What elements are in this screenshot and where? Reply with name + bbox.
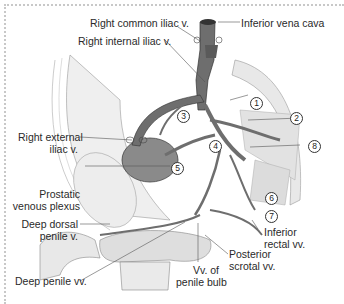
label-veins-of-penile-bulb-line2: penile bulb [176, 276, 227, 288]
marker-4: 4 [209, 140, 222, 153]
label-inferior-vena-cava: Inferior vena cava [241, 17, 324, 29]
label-right-external-iliac-vein-line1: Right external [18, 131, 78, 143]
label-inferior-rectal-veins-line1: Inferior [264, 226, 297, 238]
label-right-common-iliac-vein: Right common iliac v. [90, 17, 189, 29]
marker-6: 6 [265, 192, 278, 205]
marker-3: 3 [177, 110, 190, 123]
marker-2: 2 [290, 112, 303, 125]
label-prostatic-venous-plexus-line2: venous plexus [10, 200, 80, 212]
marker-1: 1 [250, 97, 263, 110]
marker-8: 8 [308, 140, 321, 153]
label-right-external-iliac-vein-line2: iliac v. [18, 143, 78, 155]
label-right-internal-iliac-vein: Right internal iliac v. [78, 35, 171, 47]
label-posterior-scrotal-veins-line2: scrotal vv. [229, 260, 275, 272]
marker-5: 5 [171, 162, 184, 175]
label-deep-dorsal-penile-vein-line1: Deep dorsal [10, 218, 78, 230]
marker-7: 7 [265, 210, 278, 223]
label-veins-of-penile-bulb-line1: Vv. of [186, 264, 226, 276]
label-prostatic-venous-plexus-line1: Prostatic [10, 188, 80, 200]
label-inferior-rectal-veins-line2: rectal vv. [264, 238, 305, 250]
label-deep-dorsal-penile-vein-line2: penile v. [10, 230, 78, 242]
label-deep-penile-veins: Deep penile vv. [15, 275, 87, 287]
